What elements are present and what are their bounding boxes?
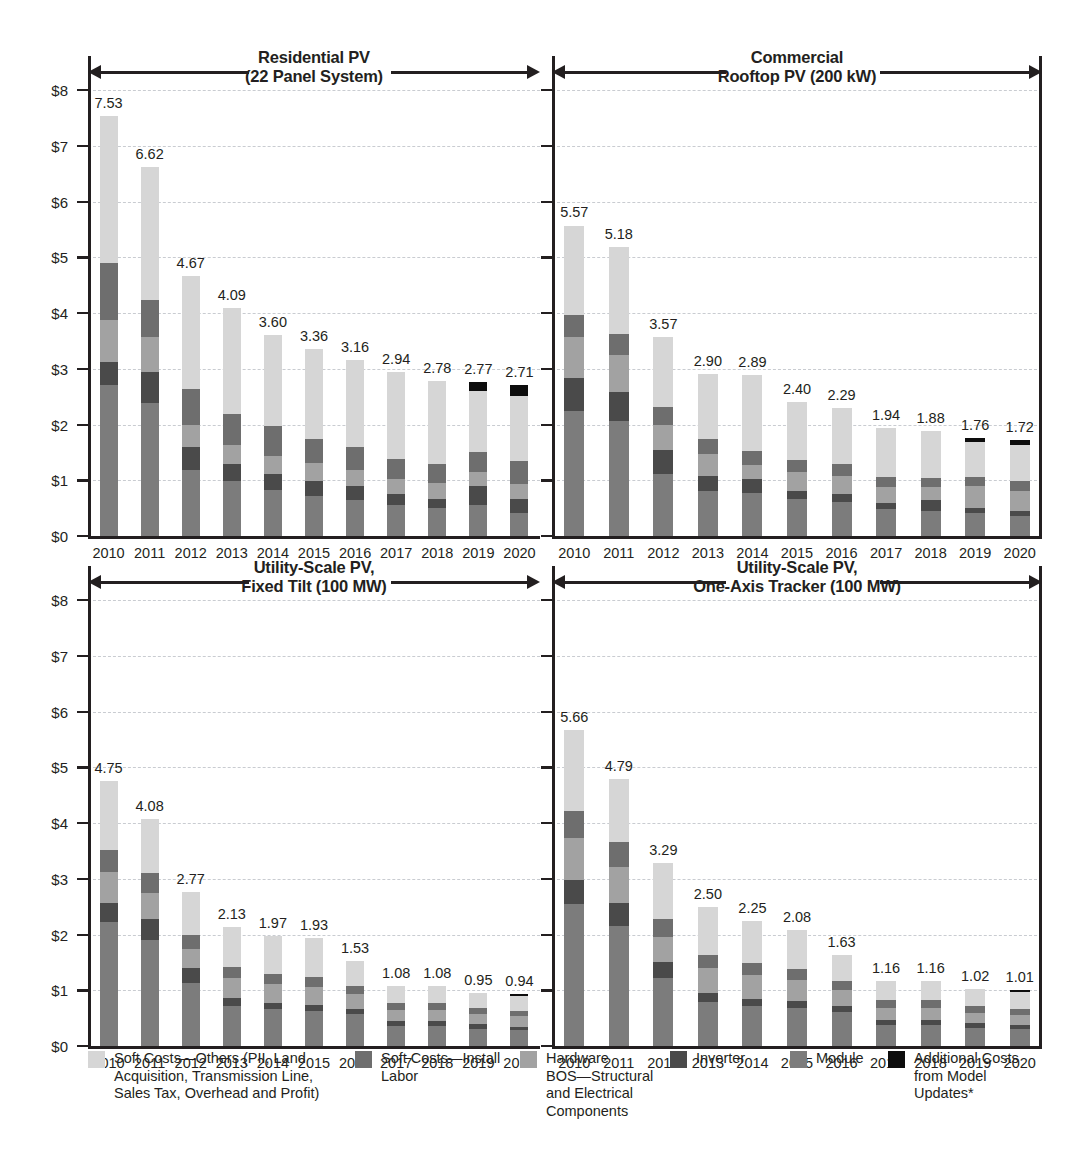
plot-area-utility-one-axis-tracker: 5.6620104.7920113.2920122.5020132.252014…: [552, 600, 1042, 1046]
bar-value-label: 1.93: [282, 917, 346, 933]
gridline: [88, 656, 540, 657]
bar-commercial-2012: [653, 337, 673, 536]
bar-segment: [264, 984, 282, 1002]
bar-segment: [609, 779, 629, 842]
bar-segment: [100, 362, 118, 385]
bar-value-label: 4.09: [200, 287, 264, 303]
bar-commercial-2011: [609, 247, 629, 536]
gridline: [552, 712, 1042, 713]
bar-segment: [141, 940, 159, 1046]
bar-segment: [182, 935, 200, 949]
bar-segment: [564, 226, 584, 315]
plot-area-utility-fixed-tilt: $0$1$2$3$4$5$6$7$84.7520104.0820112.7720…: [88, 600, 540, 1046]
bar-segment: [921, 431, 941, 478]
y-tick-mark: [541, 424, 552, 426]
bar-segment: [742, 479, 762, 493]
y-axis-tick-label: $8: [34, 82, 68, 99]
bar-segment: [698, 454, 718, 476]
y-tick-mark: [541, 822, 552, 824]
y-tick-mark: [541, 256, 552, 258]
bar-segment: [100, 922, 118, 1046]
y-tick-mark: [541, 878, 552, 880]
y-axis-tick-label: $1: [34, 472, 68, 489]
bar-residential-2017: [387, 372, 405, 536]
bar-segment: [141, 819, 159, 873]
y-tick-mark: [77, 822, 88, 824]
bar-segment: [742, 963, 762, 975]
y-axis-line: [552, 566, 555, 1048]
bar-utility-one-axis-tracker-2013: [698, 907, 718, 1046]
bar-segment: [141, 873, 159, 893]
bar-commercial-2019: [965, 438, 985, 536]
bar-segment: [876, 477, 896, 486]
y-axis-tick-label: $5: [34, 249, 68, 266]
bar-segment: [1010, 511, 1030, 515]
bar-segment: [965, 513, 985, 536]
bar-segment: [921, 500, 941, 511]
bar-segment: [832, 494, 852, 502]
y-tick-mark: [77, 424, 88, 426]
bar-segment: [141, 372, 159, 404]
bar-segment: [832, 981, 852, 990]
bar-utility-one-axis-tracker-2019: [965, 989, 985, 1046]
bar-segment: [346, 986, 364, 994]
bar-commercial-2010: [564, 225, 584, 536]
bar-value-label: 4.75: [77, 760, 141, 776]
bar-segment: [469, 391, 487, 453]
bar-segment: [876, 503, 896, 510]
legend-item-soft-costs-install-labor: Soft Costs—Install Labor: [355, 1050, 510, 1085]
bar-value-label: 1.01: [988, 969, 1052, 985]
bar-segment: [921, 1000, 941, 1007]
bar-segment: [787, 499, 807, 536]
x-axis-line: [552, 536, 1042, 539]
y-tick-mark: [541, 599, 552, 601]
bar-segment: [100, 872, 118, 903]
bar-segment: [428, 483, 446, 499]
bar-segment: [787, 969, 807, 980]
bar-segment: [387, 1021, 405, 1026]
bar-segment: [653, 337, 673, 407]
bar-segment: [742, 451, 762, 465]
bar-segment: [141, 167, 159, 300]
bar-segment: [653, 450, 673, 473]
legend-label-additional-costs-from-model-updates: Additional Costs from Model Updates*: [914, 1050, 1019, 1103]
bar-utility-one-axis-tracker-2018: [921, 981, 941, 1046]
bar-segment: [653, 863, 673, 920]
y-axis-tick-label: $3: [34, 870, 68, 887]
bar-segment: [223, 998, 241, 1006]
y-tick-mark: [77, 89, 88, 91]
bar-segment: [742, 999, 762, 1006]
bar-segment: [1010, 516, 1030, 536]
bar-residential-2019: [469, 382, 487, 536]
bar-segment: [428, 1021, 446, 1026]
bar-segment: [305, 439, 323, 463]
bar-segment: [100, 385, 118, 536]
chart-panel-utility-fixed-tilt: Utility-Scale PV, Fixed Tilt (100 MW)$0$…: [88, 558, 540, 1044]
y-tick-mark: [77, 599, 88, 601]
y-axis-tick-label: $4: [34, 305, 68, 322]
bar-segment: [346, 360, 364, 447]
bar-segment: [921, 1008, 941, 1020]
bar-segment: [305, 496, 323, 536]
bar-segment: [346, 470, 364, 487]
bar-segment: [564, 315, 584, 337]
bar-value-label: 5.66: [542, 709, 606, 725]
bar-segment: [510, 1016, 528, 1026]
bar-segment: [305, 977, 323, 987]
bar-segment: [428, 464, 446, 483]
bar-segment: [305, 463, 323, 481]
bar-segment: [141, 337, 159, 372]
bar-segment: [1010, 1015, 1030, 1026]
y-axis-tick-label: $1: [34, 982, 68, 999]
gridline: [88, 712, 540, 713]
bar-segment: [182, 949, 200, 968]
bar-segment: [876, 1000, 896, 1007]
bar-segment: [653, 474, 673, 536]
bar-segment: [965, 989, 985, 1006]
x-axis-line: [88, 536, 540, 539]
bar-segment: [264, 936, 282, 973]
bar-segment: [100, 263, 118, 320]
bar-utility-fixed-tilt-2012: [182, 892, 200, 1046]
bar-value-label: 3.29: [631, 842, 695, 858]
bar-segment: [387, 494, 405, 505]
